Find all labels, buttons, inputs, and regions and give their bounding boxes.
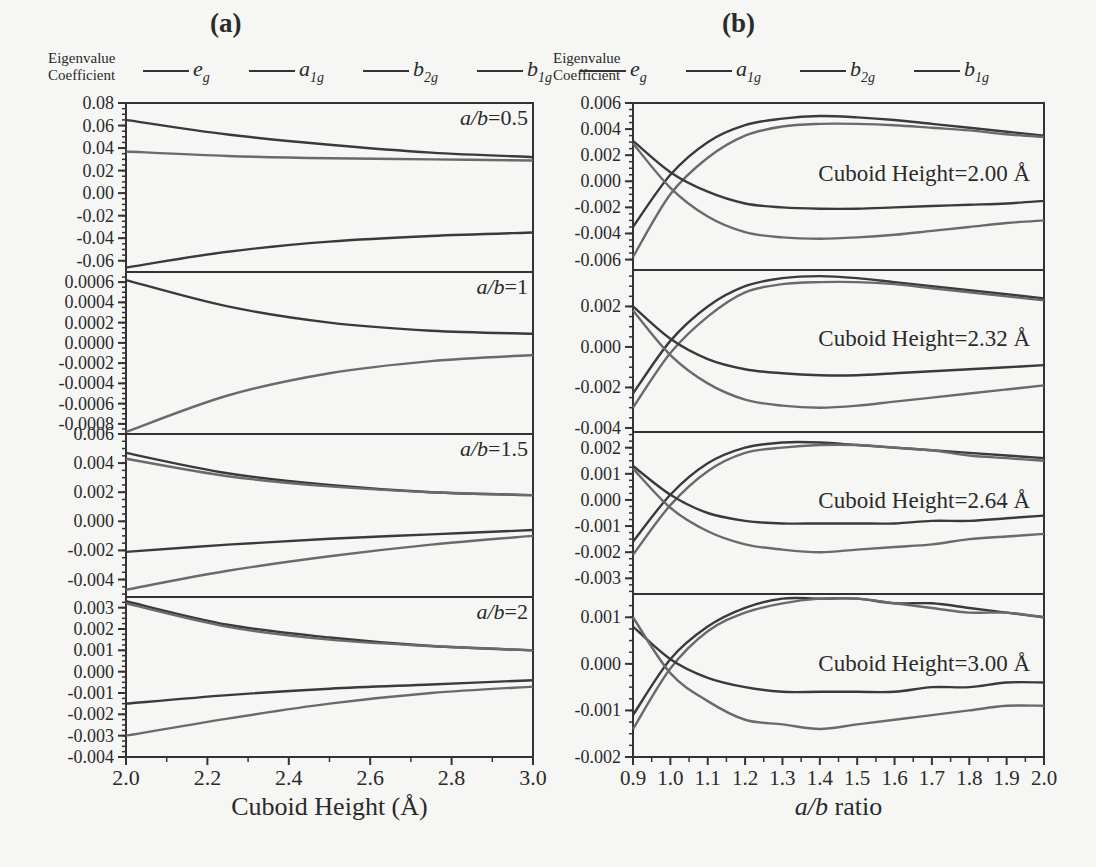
y-tick-label: 0.002	[74, 482, 115, 502]
subplot-annotation: Cuboid Height=3.00 Å	[818, 651, 1030, 676]
svg-text:eg: eg	[630, 56, 647, 85]
subplot-annotation: a/b=1	[476, 274, 528, 299]
legend-item: eg	[580, 56, 647, 85]
y-tick-label: 0.002	[581, 145, 622, 165]
x-tick-label: 2.2	[194, 765, 222, 790]
panel-b: ega1gb2gb1g0.0060.0040.0020.000-0.002-0.…	[575, 56, 1058, 821]
data-series-line	[126, 233, 533, 268]
data-series-line	[633, 143, 1044, 238]
x-axis-label: a/b ratio	[795, 792, 882, 821]
data-series-line	[633, 311, 1044, 408]
y-tick-label: -0.001	[68, 683, 115, 703]
y-tick-label: 0.000	[581, 337, 622, 357]
y-tick-label: 0.08	[83, 93, 115, 113]
legend: ega1gb2gb1g	[580, 56, 989, 85]
y-tick-label: 0.000	[581, 171, 622, 191]
y-tick-label: 0.006	[581, 93, 622, 113]
x-tick-label: 1.3	[769, 766, 795, 790]
y-tick-label: -0.002	[575, 197, 622, 217]
subplot: 0.00060.00040.00020.0000-0.0002-0.0004-0…	[59, 272, 534, 434]
subplot-annotation: a/b=1.5	[460, 436, 528, 461]
data-series-line	[126, 280, 533, 334]
x-tick-label: 1.7	[919, 766, 945, 790]
y-tick-label: 0.00	[83, 183, 115, 203]
y-tick-label: 0.002	[74, 619, 115, 639]
subplot: 0.0060.0040.0020.000-0.002-0.004-0.006Cu…	[575, 93, 1045, 270]
x-tick-label: 1.0	[657, 766, 683, 790]
y-tick-label: -0.002	[575, 747, 622, 767]
y-tick-label: -0.04	[77, 228, 115, 248]
svg-text:eg: eg	[193, 56, 210, 85]
legend-item: eg	[143, 56, 210, 85]
y-tick-label: -0.003	[575, 568, 622, 588]
y-tick-label: -0.002	[68, 704, 115, 724]
x-tick-label: 1.4	[807, 766, 834, 790]
subplot-annotation: Cuboid Height=2.64 Å	[818, 488, 1030, 513]
y-tick-label: -0.004	[68, 747, 115, 767]
chart-canvas: ega1gb2gb1g0.080.060.040.020.00-0.02-0.0…	[0, 0, 1096, 867]
x-tick-label: 1.1	[695, 766, 721, 790]
y-tick-label: 0.02	[83, 161, 115, 181]
legend-item: a1g	[686, 56, 761, 85]
svg-text:b2g: b2g	[413, 56, 438, 85]
y-tick-label: 0.000	[74, 662, 115, 682]
subplot: 0.0010.000-0.001-0.002Cuboid Height=3.00…	[575, 594, 1045, 767]
subplot-annotation: Cuboid Height=2.00 Å	[818, 161, 1030, 186]
x-tick-label: 2.0	[1031, 766, 1057, 790]
y-tick-label: 0.004	[74, 453, 115, 473]
y-tick-label: -0.003	[68, 726, 115, 746]
y-tick-label: -0.001	[575, 516, 622, 536]
legend-item: b1g	[914, 56, 989, 85]
y-tick-label: 0.0004	[65, 292, 115, 312]
y-tick-label: -0.02	[77, 206, 115, 226]
y-tick-label: 0.04	[83, 138, 115, 158]
subplot-annotation: Cuboid Height=2.32 Å	[818, 326, 1030, 351]
legend-item: a1g	[249, 56, 324, 85]
y-tick-label: 0.001	[581, 464, 622, 484]
y-tick-label: -0.004	[68, 570, 115, 590]
x-tick-label: 1.5	[844, 766, 870, 790]
y-tick-label: 0.0000	[65, 333, 115, 353]
subplot: 0.0030.0020.0010.000-0.001-0.002-0.003-0…	[68, 597, 534, 767]
y-tick-label: 0.002	[581, 296, 622, 316]
svg-text:a1g: a1g	[299, 56, 324, 85]
figure: (a) (b) Eigenvalue Coefficient Eigenvalu…	[0, 0, 1096, 867]
y-tick-label: -0.002	[575, 377, 622, 397]
y-tick-label: -0.002	[575, 542, 622, 562]
legend-item: b2g	[363, 56, 438, 85]
data-series-line	[126, 603, 533, 650]
legend: ega1gb2gb1g	[143, 56, 552, 85]
legend-item: b1g	[477, 56, 552, 85]
data-series-line	[126, 355, 533, 432]
y-tick-label: -0.002	[68, 540, 115, 560]
x-tick-label: 3.0	[519, 765, 547, 790]
svg-text:b2g: b2g	[850, 56, 875, 85]
panel-a: ega1gb2gb1g0.080.060.040.020.00-0.02-0.0…	[59, 56, 553, 821]
y-tick-label: 0.004	[581, 119, 622, 139]
x-tick-label: 1.2	[732, 766, 758, 790]
x-tick-label: 2.0	[112, 765, 140, 790]
data-series-line	[126, 459, 533, 495]
y-tick-label: 0.000	[581, 490, 622, 510]
y-tick-label: -0.0006	[59, 394, 115, 414]
y-tick-label: 0.003	[74, 598, 115, 618]
svg-text:b1g: b1g	[964, 56, 989, 85]
x-tick-label: 1.9	[994, 766, 1020, 790]
y-tick-label: -0.006	[575, 250, 622, 270]
subplot: 0.0060.0040.0020.000-0.002-0.004a/b=1.5	[68, 424, 534, 597]
data-series-line	[126, 536, 533, 590]
x-tick-label: 1.8	[956, 766, 982, 790]
y-tick-label: 0.001	[74, 640, 115, 660]
subplot-annotation: a/b=2	[476, 599, 528, 624]
x-tick-label: 0.9	[620, 766, 646, 790]
y-tick-label: 0.000	[581, 654, 622, 674]
y-tick-label: -0.06	[77, 251, 115, 271]
legend-item: b2g	[800, 56, 875, 85]
y-tick-label: 0.001	[581, 607, 622, 627]
subplot-annotation: a/b=0.5	[460, 105, 528, 130]
y-tick-label: -0.004	[575, 223, 622, 243]
subplot: 0.0020.000-0.002-0.004Cuboid Height=2.32…	[575, 270, 1045, 438]
subplot: 0.0020.0010.000-0.001-0.002-0.003Cuboid …	[575, 432, 1045, 594]
y-tick-label: -0.001	[575, 700, 622, 720]
subplot: 0.080.060.040.020.00-0.02-0.04-0.06a/b=0…	[77, 93, 534, 272]
